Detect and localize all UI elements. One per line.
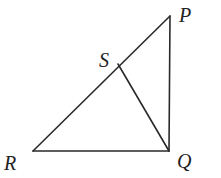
segment-RP <box>33 16 170 151</box>
triangle-diagram: P Q R S <box>0 0 221 178</box>
segment-SQ <box>118 64 169 151</box>
diagram-canvas: P Q R S <box>0 0 221 178</box>
segment-PQ <box>169 16 170 151</box>
label-Q: Q <box>177 150 192 172</box>
label-S: S <box>99 49 109 71</box>
label-R: R <box>3 152 16 174</box>
label-P: P <box>178 4 191 26</box>
